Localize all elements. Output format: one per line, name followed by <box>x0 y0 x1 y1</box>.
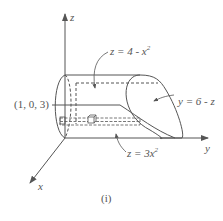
figure-caption: (i) <box>101 193 111 204</box>
top-surface-eq-exp: 2 <box>147 44 151 52</box>
top-surface-eq-text: z = 4 - x <box>110 45 147 57</box>
bottom-surface-equation: z = 3x2 <box>127 148 158 159</box>
plane-equation: y = 6 - z <box>178 96 215 107</box>
point-label: (1, 0, 3) <box>14 99 49 110</box>
y-axis-label: y <box>205 143 210 154</box>
top-surface-equation: z = 4 - x2 <box>110 46 150 57</box>
bottom-surface-eq-exp: 2 <box>155 146 159 154</box>
solid-region-diagram <box>0 0 223 221</box>
z-axis-label: z <box>70 12 74 23</box>
front-end-curve <box>55 75 65 138</box>
bottom-surface-eq-text: z = 3x <box>127 147 155 159</box>
x-axis-label: x <box>38 181 43 192</box>
x-axis <box>30 138 65 183</box>
arrow-bottom-surface <box>116 134 126 152</box>
